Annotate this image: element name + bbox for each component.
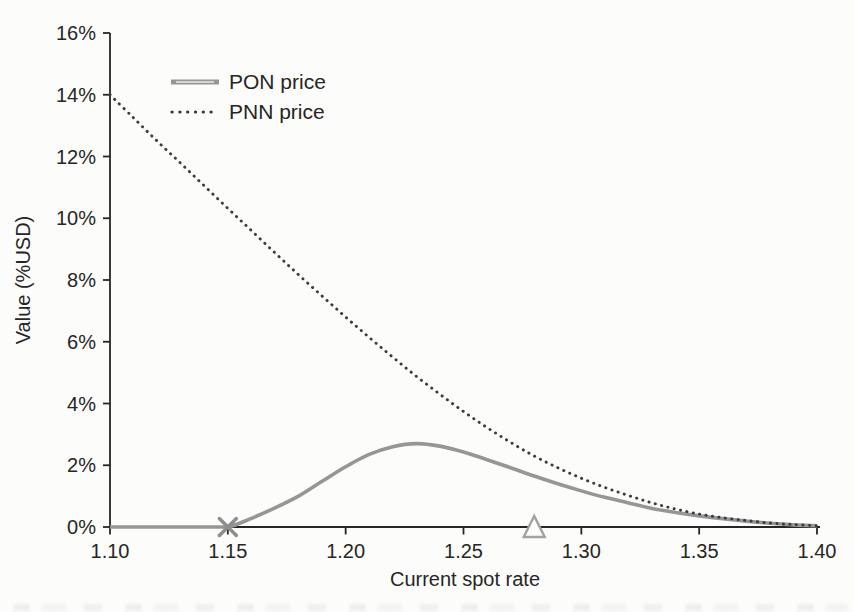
pnn-price-curve xyxy=(110,95,817,526)
x-axis-title: Current spot rate xyxy=(390,568,540,590)
y-axis-title: Value (%USD) xyxy=(12,216,34,345)
legend-pnn-label: PNN price xyxy=(229,100,325,123)
pon-price-curve xyxy=(110,444,817,527)
y-tick-label: 2% xyxy=(67,454,96,476)
y-axis-ticks: 0%2%4%6%8%10%12%14%16% xyxy=(56,22,110,538)
y-tick-label: 12% xyxy=(56,146,96,168)
x-axis-ticks: 1.101.151.201.251.301.351.40 xyxy=(91,527,837,562)
chart-figure: 0%2%4%6%8%10%12%14%16% 1.101.151.201.251… xyxy=(0,0,854,612)
y-tick-label: 4% xyxy=(67,393,96,415)
x-tick-label: 1.10 xyxy=(91,540,130,562)
series-layer xyxy=(110,95,817,527)
y-tick-label: 6% xyxy=(67,331,96,353)
x-tick-label: 1.40 xyxy=(798,540,837,562)
pon-pnn-price-chart: 0%2%4%6%8%10%12%14%16% 1.101.151.201.251… xyxy=(0,0,854,612)
x-tick-label: 1.35 xyxy=(680,540,719,562)
y-tick-label: 14% xyxy=(56,84,96,106)
y-tick-label: 0% xyxy=(67,516,96,538)
y-tick-label: 8% xyxy=(67,269,96,291)
x-tick-label: 1.20 xyxy=(326,540,365,562)
legend-pon-label: PON price xyxy=(229,70,326,93)
legend: PON price PNN price xyxy=(171,70,326,123)
x-tick-label: 1.15 xyxy=(208,540,247,562)
x-tick-label: 1.25 xyxy=(444,540,483,562)
x-tick-label: 1.30 xyxy=(562,540,601,562)
cropped-caption-remnant xyxy=(14,604,848,611)
y-tick-label: 10% xyxy=(56,207,96,229)
y-tick-label: 16% xyxy=(56,22,96,44)
